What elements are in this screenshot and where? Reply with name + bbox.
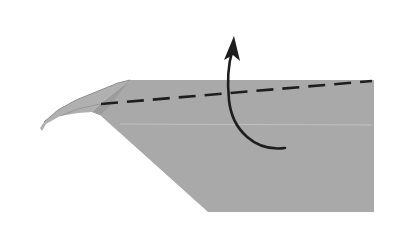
arrowhead-icon — [224, 36, 240, 61]
origami-diagram — [0, 0, 396, 235]
paper-body — [92, 80, 374, 212]
